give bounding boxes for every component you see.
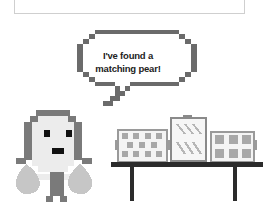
box-pattern-dots	[115, 130, 170, 162]
right-pear-icon	[68, 164, 92, 194]
speech-bubble-text: I've found a matching pear!	[82, 49, 174, 75]
table-scene	[105, 110, 270, 211]
box-pattern-stripes	[171, 115, 206, 161]
left-eye-icon	[44, 130, 50, 137]
pixel-character	[12, 108, 102, 208]
box-pattern-flowers	[211, 132, 257, 162]
speech-line-1: I've found a	[82, 49, 174, 62]
right-eye-icon	[66, 130, 72, 137]
character-face	[32, 116, 74, 172]
top-panel	[14, 0, 245, 14]
speech-line-2: matching pear!	[82, 62, 174, 75]
left-pear-icon	[16, 164, 40, 194]
character-body	[50, 172, 64, 196]
table	[111, 162, 263, 201]
mouth-icon	[52, 148, 64, 154]
